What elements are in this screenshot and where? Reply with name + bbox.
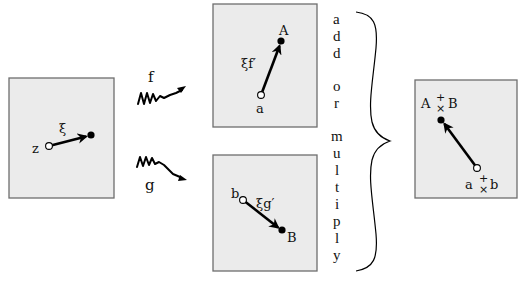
result-start-times-op: × [479,183,488,196]
op-letter: l [335,162,339,178]
result-end-A-label: A [420,96,431,111]
vector-xi-f-prime-label: ξf′ [241,56,256,71]
image-panel-g: b ξg′ B [213,155,317,271]
map-g: g [137,157,187,194]
op-letter: o [333,78,341,94]
image-panel-f: A ξf′ a [213,4,317,127]
result-end-dot [437,116,444,123]
op-letter: a [333,11,340,27]
image-panel-f-box [213,4,317,127]
op-letter: y [333,247,341,263]
point-b-circle [240,197,247,204]
point-z-circle [46,143,53,150]
image-panel-g-box [213,155,317,271]
point-A-dot [277,37,284,44]
point-B-dot [278,226,285,233]
op-letter: p [333,213,341,229]
point-A-label: A [278,23,289,38]
op-letter: t [335,179,340,195]
op-letter: l [335,230,339,246]
vector-xi-g-prime-label: ξg′ [256,196,274,211]
result-start-circle [474,165,481,172]
result-start-b-label: b [490,177,498,192]
point-b-label: b [231,186,239,201]
squiggle-arrow-f [138,90,182,104]
result-start-a-label: a [465,177,473,192]
op-letter: d [333,45,341,61]
op-letter: m [331,128,343,144]
vector-xi-label: ξ [59,121,66,136]
op-letter: i [335,196,339,212]
result-end-times-op: × [436,102,445,115]
point-B-label: B [287,230,297,245]
point-z-label: z [32,141,39,156]
derivative-composition-diagram: z ξ f g A ξf′ a b ξg′ B a d d o r [0,0,525,281]
squiggle-arrow-g [137,157,180,177]
op-letter: r [334,95,339,111]
op-letter: u [333,145,341,161]
operation-text: a d d o r m u l t i p l y [331,11,343,263]
curly-brace [356,12,390,271]
point-a-label: a [256,101,264,116]
result-panel: A + × B a + × b [415,80,517,198]
point-a-circle [258,92,265,99]
source-panel-box [9,78,114,198]
vector-tip-dot [87,131,94,138]
op-letter: d [333,28,341,44]
map-g-label: g [145,176,155,194]
map-f: f [138,68,186,104]
source-panel: z ξ [9,78,114,198]
result-end-B-label: B [448,96,458,111]
map-f-label: f [148,68,155,86]
